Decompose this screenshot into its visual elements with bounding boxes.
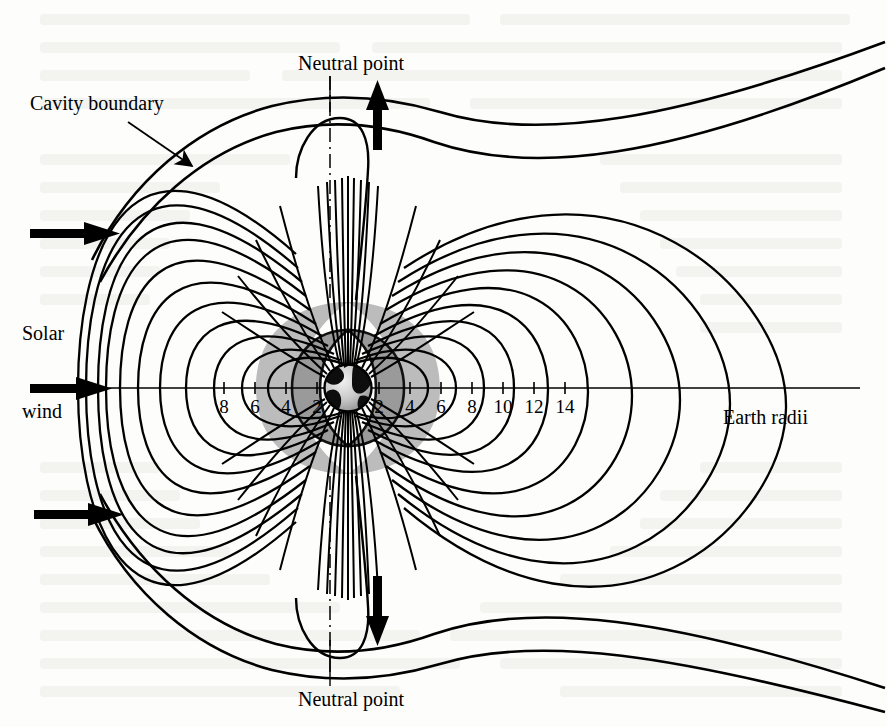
solar-wind-label-wind: wind	[22, 400, 62, 423]
axis-tick-label: 8	[467, 396, 477, 418]
axis-tick-label: 14	[556, 396, 575, 418]
axis-tick-label: 8	[219, 396, 229, 418]
axis-tick-label: 6	[436, 396, 446, 418]
solar-wind-label-solar: Solar	[22, 322, 64, 345]
axis-tick-label: 6	[250, 396, 260, 418]
axis-tick-label: 2	[312, 396, 322, 418]
figure-canvas: Cavity boundary Neutral point Neutral po…	[0, 0, 887, 727]
axis-tick-label: 4	[405, 396, 415, 418]
axis-tick-label: 12	[525, 396, 544, 418]
cavity-boundary-south-outer	[92, 516, 885, 712]
neutral-point-label-top: Neutral point	[298, 52, 404, 75]
page-bleed-through	[40, 14, 850, 697]
axis-tick-label: 4	[281, 396, 291, 418]
cavity-boundary-label: Cavity boundary	[30, 92, 164, 115]
axis-tick-label: 2	[374, 396, 384, 418]
neutral-point-arrow-north	[366, 80, 389, 150]
earth-radii-axis	[30, 382, 860, 394]
earth-radii-axis-label: Earth radii	[723, 406, 808, 429]
neutral-point-label-bottom: Neutral point	[298, 688, 404, 711]
solar-wind-arrow-middle	[30, 377, 112, 400]
axis-tick-label: 10	[494, 396, 513, 418]
